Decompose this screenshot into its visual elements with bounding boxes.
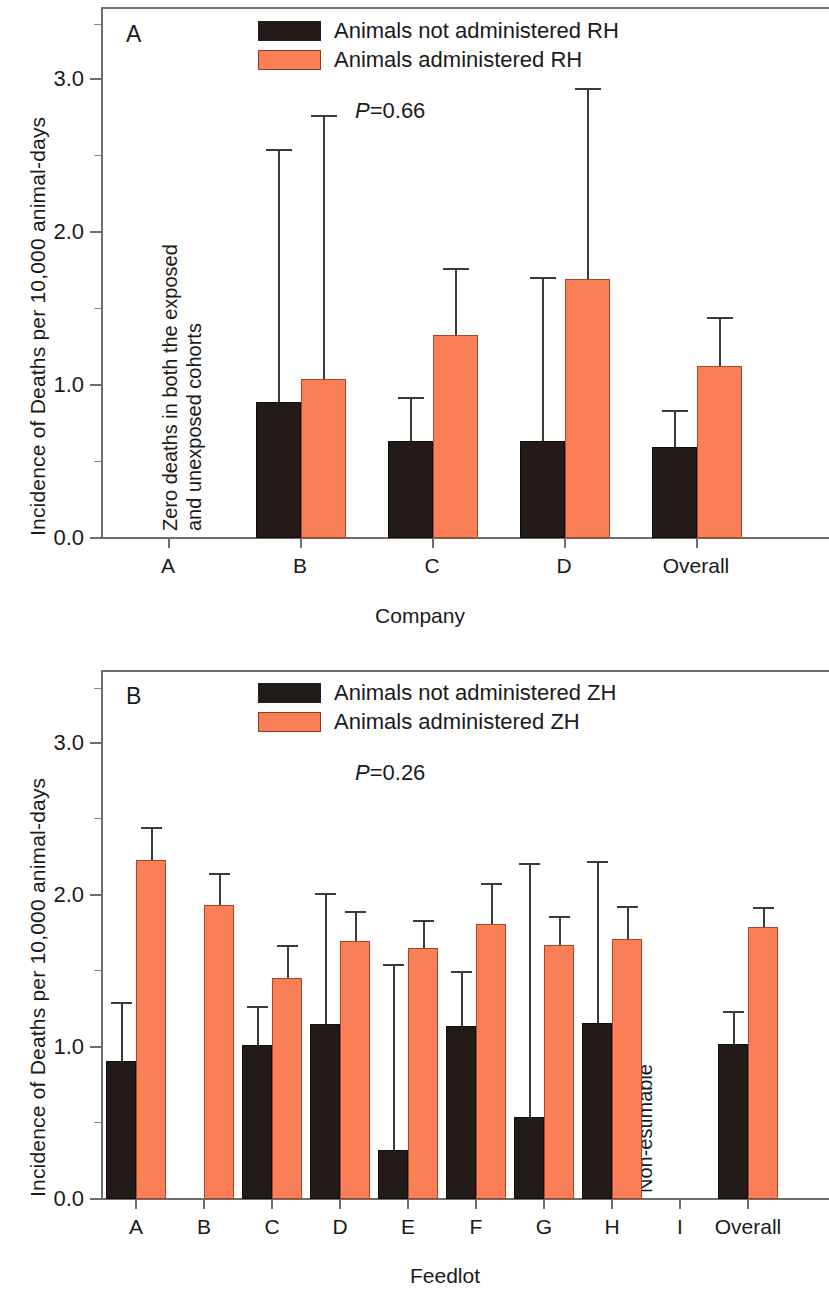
panel-b-ytick-minor: [94, 1122, 101, 1123]
panel-b-legend-label-1: Animals administered ZH: [334, 709, 580, 735]
panel-b-ytick-minor: [94, 818, 101, 819]
panel-b-xtick: [611, 1198, 613, 1209]
panel-a-ytick-minor: [94, 155, 101, 156]
panel-b-xtick: [679, 1198, 681, 1209]
panel-a-p-value: P=0.66: [355, 98, 425, 124]
bar-b-B-administered: [204, 905, 234, 1199]
panel-a-xtick-label-0: A: [118, 554, 218, 578]
panel-a-p-rest: =0.66: [370, 98, 426, 123]
error-stem: [278, 149, 280, 402]
errorbar-b-G-administered: [549, 916, 570, 945]
bar-b-H-not-administered: [582, 1023, 612, 1199]
bar-a-B-administered: [301, 379, 346, 538]
error-stem: [763, 907, 765, 927]
panel-a-xtick-label-2: C: [382, 554, 482, 578]
bar-a-Overall-not-administered: [652, 447, 697, 538]
errorbar-b-F-administered: [481, 883, 502, 924]
errorbar-a-Overall-not-administered: [662, 410, 688, 447]
panel-b-ytick-minor: [94, 970, 101, 971]
panel-a-zero-deaths-note-line2: and unexposed cohorts: [183, 244, 207, 531]
error-stem: [355, 911, 357, 941]
bar-b-E-administered: [408, 948, 438, 1199]
errorbar-b-D-administered: [345, 911, 366, 941]
error-stem: [455, 268, 457, 335]
errorbar-a-B-not-administered: [266, 149, 292, 402]
errorbar-b-E-not-administered: [383, 964, 404, 1150]
panel-b-legend-label-0: Animals not administered ZH: [334, 680, 616, 706]
error-stem: [257, 1006, 259, 1045]
errorbar-b-B-administered: [209, 873, 230, 905]
bar-b-H-administered: [612, 939, 642, 1199]
panel-a: Incidence of Deaths per 10,000 animal-da…: [0, 0, 829, 640]
errorbar-b-G-not-administered: [519, 863, 540, 1117]
error-cap: [443, 268, 469, 270]
panel-a-legend-item-administered: Animals administered RH: [258, 47, 619, 73]
panel-a-ytick-label-2: 2.0: [20, 219, 84, 245]
bar-a-C-administered: [433, 335, 478, 538]
panel-b-xtick-label-9: Overall: [703, 1215, 793, 1239]
panel-b-ytick-label-1: 1.0: [20, 1034, 84, 1060]
panel-b-legend-item-administered: Animals administered ZH: [258, 709, 616, 735]
error-cap: [277, 945, 298, 947]
error-stem: [559, 916, 561, 945]
panel-a-legend-item-not-administered: Animals not administered RH: [258, 18, 619, 44]
bar-b-Overall-administered: [748, 927, 778, 1199]
errorbar-b-H-administered: [617, 906, 638, 939]
errorbar-b-C-not-administered: [247, 1006, 268, 1045]
error-stem: [719, 317, 721, 366]
panel-b-p-rest: =0.26: [370, 760, 426, 785]
panel-b-xtick: [271, 1198, 273, 1209]
errorbar-b-E-administered: [413, 920, 434, 948]
bar-b-C-administered: [272, 978, 302, 1199]
error-stem: [491, 883, 493, 924]
error-cap: [617, 906, 638, 908]
error-cap: [587, 861, 608, 863]
panel-b-xtick: [543, 1198, 545, 1209]
bar-b-G-not-administered: [514, 1117, 544, 1199]
panel-a-p-symbol: P: [355, 98, 370, 123]
error-cap: [575, 88, 601, 90]
error-stem: [423, 920, 425, 948]
error-cap: [753, 907, 774, 909]
errorbar-a-D-not-administered: [530, 277, 556, 441]
panel-b-ytick-label-2: 2.0: [20, 882, 84, 908]
bar-b-F-not-administered: [446, 1026, 476, 1199]
bar-b-A-administered: [136, 860, 166, 1199]
errorbar-b-H-not-administered: [587, 861, 608, 1023]
panel-a-legend: Animals not administered RH Animals admi…: [258, 18, 619, 76]
bar-b-A-not-administered: [106, 1061, 136, 1199]
error-cap: [451, 971, 472, 973]
error-cap: [723, 1011, 744, 1013]
error-stem: [529, 863, 531, 1117]
panel-b-letter: B: [126, 683, 141, 710]
errorbar-a-C-not-administered: [398, 397, 424, 441]
bar-a-D-not-administered: [520, 441, 565, 538]
panel-b-xtick: [339, 1198, 341, 1209]
error-cap: [383, 964, 404, 966]
legend-swatch-dark-icon: [258, 21, 321, 41]
panel-a-zero-deaths-note: Zero deaths in both the exposed and unex…: [159, 244, 206, 531]
panel-b-xtick: [135, 1198, 137, 1209]
bar-a-B-not-administered: [256, 402, 301, 538]
panel-a-legend-label-0: Animals not administered RH: [334, 18, 619, 44]
error-stem: [151, 827, 153, 860]
panel-a-xtick-label-3: D: [514, 554, 614, 578]
error-stem: [674, 410, 676, 447]
error-cap: [398, 397, 424, 399]
error-stem: [323, 115, 325, 379]
error-cap: [311, 115, 337, 117]
error-cap: [345, 911, 366, 913]
error-stem: [325, 893, 327, 1024]
error-cap: [247, 1006, 268, 1008]
error-cap: [315, 893, 336, 895]
errorbar-b-A-not-administered: [111, 1002, 132, 1061]
errorbar-b-F-not-administered: [451, 971, 472, 1026]
panel-b-ytick-1: [90, 1046, 101, 1048]
error-cap: [549, 916, 570, 918]
panel-a-ytick-label-3: 3.0: [20, 66, 84, 92]
panel-a-ytick-minor: [94, 308, 101, 309]
legend-swatch-orange-icon: [258, 712, 321, 732]
bar-b-G-administered: [544, 945, 574, 1199]
panel-b-ytick-3: [90, 742, 101, 744]
errorbar-a-D-administered: [575, 88, 601, 279]
